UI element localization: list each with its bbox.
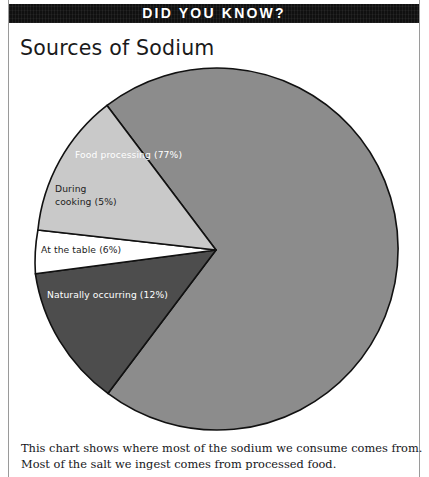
page-title: Sources of Sodium bbox=[20, 36, 215, 60]
page-frame-right-rule bbox=[419, 0, 420, 477]
pie-chart: Food processing (77%) During cooking (5%… bbox=[9, 60, 419, 435]
caption-line-2: Most of the salt we ingest comes from pr… bbox=[21, 456, 411, 472]
pie-chart-svg: Food processing (77%) During cooking (5%… bbox=[9, 60, 419, 435]
banner-title: DID YOU KNOW? bbox=[9, 4, 419, 23]
did-you-know-banner: DID YOU KNOW? bbox=[9, 4, 419, 23]
pie-label-during-cooking-line2: cooking (5%) bbox=[55, 196, 117, 207]
pie-label-naturally-occurring: Naturally occurring (12%) bbox=[47, 289, 168, 300]
pie-label-at-the-table: At the table (6%) bbox=[41, 244, 121, 255]
pie-label-during-cooking-line1: During bbox=[55, 183, 86, 194]
caption-line-1: This chart shows where most of the sodiu… bbox=[21, 440, 411, 456]
chart-caption: This chart shows where most of the sodiu… bbox=[21, 440, 411, 472]
did-you-know-panel: DID YOU KNOW? Sources of Sodium Food pro… bbox=[0, 0, 429, 477]
pie-label-food-processing: Food processing (77%) bbox=[75, 149, 182, 160]
